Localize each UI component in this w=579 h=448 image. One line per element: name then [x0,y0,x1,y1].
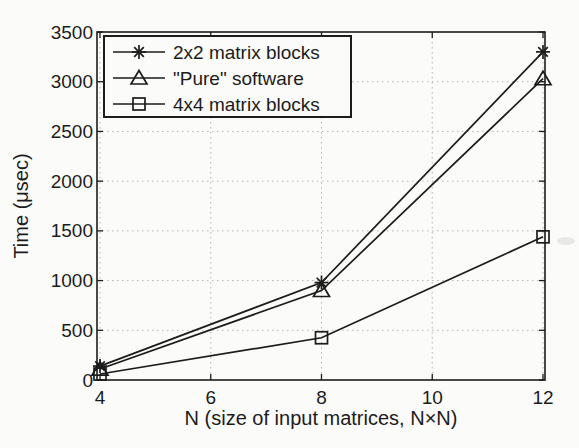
y-tick-label: 1500 [51,220,93,241]
line-chart: 2x2 matrix blocks"Pure" software4x4 matr… [0,0,579,448]
y-tick-label: 500 [61,320,93,341]
y-tick-label: 1000 [51,270,93,291]
y-tick-label: 0 [82,370,93,391]
y-axis-label: Time (μsec) [10,153,32,258]
legend-label: "Pure" software [173,68,304,89]
y-tick-label: 3000 [51,71,93,92]
x-axis-label: N (size of input matrices, N×N) [185,407,458,429]
x-tick-label: 10 [422,387,443,408]
x-tick-label: 8 [316,387,327,408]
y-tick-label: 2500 [51,121,93,142]
scan-artifact [557,237,575,245]
scanned-figure: 2x2 matrix blocks"Pure" software4x4 matr… [0,0,579,448]
legend-label: 2x2 matrix blocks [173,42,320,63]
legend-label: 4x4 matrix blocks [173,94,320,115]
x-tick-label: 6 [205,387,216,408]
x-tick-label: 12 [532,387,553,408]
y-tick-label: 3500 [51,22,93,43]
x-tick-label: 4 [95,387,106,408]
y-tick-label: 2000 [51,171,93,192]
